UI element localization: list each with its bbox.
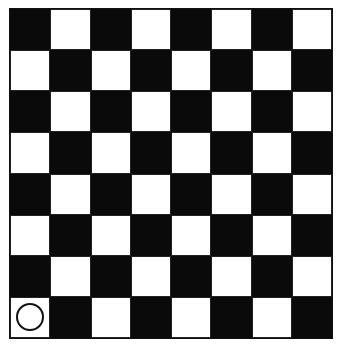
board-square [171, 297, 211, 338]
board-square [50, 50, 90, 91]
board-square [91, 9, 131, 50]
board-square [50, 256, 90, 297]
board-square [131, 215, 171, 256]
board-square [171, 174, 211, 215]
checkerboard [9, 8, 333, 339]
board-square [50, 9, 90, 50]
board-square [211, 50, 251, 91]
board-square [252, 215, 292, 256]
board-square [292, 215, 332, 256]
board-square [10, 174, 50, 215]
board-square [91, 91, 131, 132]
board-square [292, 174, 332, 215]
board-square [131, 256, 171, 297]
board-square [10, 256, 50, 297]
board-square [252, 50, 292, 91]
board-square [50, 215, 90, 256]
board-square [131, 9, 171, 50]
board-square [292, 50, 332, 91]
board-square [10, 50, 50, 91]
board-square [211, 256, 251, 297]
board-square [252, 297, 292, 338]
board-square [211, 132, 251, 173]
board-square [171, 91, 211, 132]
board-square [91, 256, 131, 297]
board-square [171, 215, 211, 256]
board-square [211, 215, 251, 256]
board-square [131, 132, 171, 173]
board-square [131, 91, 171, 132]
board-square [50, 174, 90, 215]
board-square [292, 297, 332, 338]
board-square [50, 91, 90, 132]
board-square [10, 297, 50, 338]
board-square [211, 174, 251, 215]
board-square [131, 50, 171, 91]
board-square [252, 174, 292, 215]
board-square [171, 50, 211, 91]
board-square [50, 297, 90, 338]
board-square [91, 215, 131, 256]
board-square [131, 297, 171, 338]
board-square [252, 9, 292, 50]
board-square [91, 132, 131, 173]
board-square [292, 256, 332, 297]
board-square [292, 91, 332, 132]
board-square [292, 132, 332, 173]
board-square [211, 91, 251, 132]
board-square [10, 91, 50, 132]
board-square [171, 9, 211, 50]
board-square [211, 9, 251, 50]
board-square [252, 132, 292, 173]
circle-piece-icon [16, 303, 44, 331]
board-square [91, 297, 131, 338]
board-square [211, 297, 251, 338]
board-square [10, 9, 50, 50]
board-square [292, 9, 332, 50]
board-square [252, 91, 292, 132]
board-square [10, 215, 50, 256]
board-square [50, 132, 90, 173]
board-square [171, 132, 211, 173]
board-square [171, 256, 211, 297]
board-square [131, 174, 171, 215]
board-square [10, 132, 50, 173]
board-square [91, 50, 131, 91]
board-square [252, 256, 292, 297]
board-square [91, 174, 131, 215]
